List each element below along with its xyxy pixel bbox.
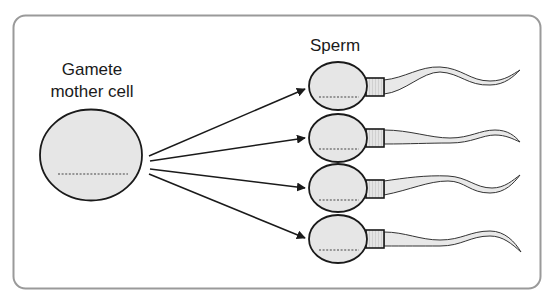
mother-cell-label-line1: Gamete bbox=[62, 60, 122, 79]
meiosis-diagram: Gamete mother cell Sperm bbox=[0, 0, 547, 299]
sperm-midpiece bbox=[366, 129, 384, 147]
mother-cell-label-line2: mother cell bbox=[50, 82, 133, 101]
sperm-head bbox=[309, 114, 367, 162]
sperm-midpiece bbox=[366, 180, 384, 198]
sperm-head bbox=[309, 62, 367, 110]
sperm-label: Sperm bbox=[310, 36, 360, 55]
sperm-head bbox=[309, 215, 367, 263]
sperm-head bbox=[309, 164, 367, 212]
sperm-midpiece bbox=[366, 78, 384, 96]
sperm-midpiece bbox=[366, 230, 384, 248]
gamete-mother-cell bbox=[40, 110, 142, 201]
